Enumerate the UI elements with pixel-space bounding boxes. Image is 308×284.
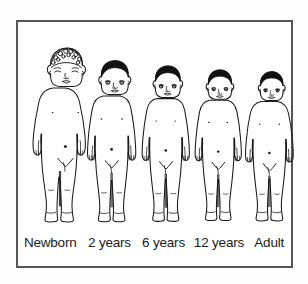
body-proportions-figure: Newborn 2 years 6 years 12 years Adult (0, 0, 308, 284)
stage-label-row: Newborn 2 years 6 years 12 years Adult (18, 231, 291, 253)
stage-label-adult: Adult (247, 235, 291, 250)
stage-label-twelve-years: 12 years (191, 235, 248, 250)
stage-label-six-years: 6 years (136, 235, 190, 250)
stage-label-two-years: 2 years (82, 235, 136, 250)
stage-label-newborn: Newborn (18, 235, 82, 250)
